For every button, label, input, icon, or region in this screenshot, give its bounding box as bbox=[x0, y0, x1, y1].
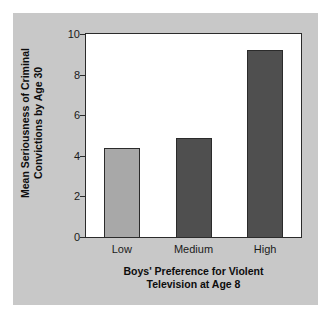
y-axis-tick-label: 10 bbox=[40, 29, 80, 40]
y-axis-tick-label: 2 bbox=[40, 191, 80, 202]
x-axis-title-line-2: Television at Age 8 bbox=[147, 278, 241, 290]
bar-low bbox=[104, 148, 140, 237]
y-axis-tick-label: 0 bbox=[40, 232, 80, 243]
y-axis-tick-label: 8 bbox=[40, 69, 80, 80]
y-axis-tick-label: 6 bbox=[40, 110, 80, 121]
x-axis-title: Boys' Preference for Violent Television … bbox=[85, 265, 302, 291]
y-axis-tick-labels: 0246810 bbox=[36, 0, 80, 318]
x-axis-tick-label-low: Low bbox=[112, 243, 132, 255]
bar-high bbox=[247, 50, 283, 237]
x-axis-title-line-1: Boys' Preference for Violent bbox=[123, 265, 263, 277]
chart-figure: Mean Seriousness of Criminal Convictions… bbox=[0, 0, 331, 318]
y-axis-title-line-1: Mean Seriousness of Criminal bbox=[19, 48, 32, 198]
plot-area bbox=[86, 34, 301, 237]
x-axis-tick-label-high: High bbox=[254, 243, 277, 255]
x-axis-tick-label-medium: Medium bbox=[174, 243, 213, 255]
y-axis-tick-label: 4 bbox=[40, 150, 80, 161]
plot-area-frame bbox=[85, 33, 302, 238]
bar-medium bbox=[176, 138, 212, 237]
